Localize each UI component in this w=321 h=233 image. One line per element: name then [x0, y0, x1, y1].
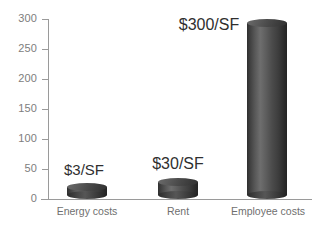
- bar-cylinder-energy-costs: [67, 183, 107, 199]
- y-tick-100: 100: [0, 139, 49, 140]
- y-tick-label: 200: [0, 73, 37, 84]
- bar-value-label-energy-costs: $3/SF: [56, 161, 112, 179]
- y-tick-300: 300: [0, 19, 49, 20]
- y-tick-150: 150: [0, 109, 49, 110]
- y-tick-200: 200: [0, 79, 49, 80]
- y-tick-label: 300: [0, 13, 37, 24]
- y-tick-mark: [42, 49, 49, 50]
- y-tick-250: 250: [0, 49, 49, 50]
- cylinder-bar-chart: 300 250 200 150 100 50 0 $3/SF Energy co…: [0, 0, 321, 233]
- y-tick-label: 50: [0, 163, 37, 174]
- x-label-rent: Rent: [140, 205, 216, 218]
- bar-value-label-employee-costs: $300/SF: [167, 16, 251, 34]
- cylinder-bottom-cap: [247, 191, 287, 199]
- cylinder-top-cap: [158, 178, 198, 186]
- x-axis-line: [41, 199, 312, 200]
- y-tick-mark: [42, 139, 49, 140]
- y-tick-50: 50: [0, 169, 49, 170]
- cylinder-top-cap: [67, 183, 107, 191]
- y-tick-label: 100: [0, 133, 37, 144]
- y-tick-mark: [42, 109, 49, 110]
- y-tick-mark: [42, 79, 49, 80]
- y-tick-label: 0: [0, 193, 37, 204]
- x-label-employee-costs: Employee costs: [222, 205, 314, 218]
- bar-value-label-rent: $30/SF: [140, 155, 216, 173]
- cylinder-top-cap: [247, 19, 287, 27]
- y-tick-label: 150: [0, 103, 37, 114]
- x-label-energy-costs: Energy costs: [42, 205, 132, 218]
- bar-cylinder-employee-costs: [247, 19, 287, 199]
- cylinder-bottom-cap: [158, 191, 198, 199]
- cylinder-body: [247, 23, 287, 195]
- cylinder-bottom-cap: [67, 191, 107, 199]
- bar-cylinder-rent: [158, 178, 198, 199]
- y-tick-mark: [42, 19, 49, 20]
- y-tick-mark: [42, 169, 49, 170]
- y-tick-label: 250: [0, 43, 37, 54]
